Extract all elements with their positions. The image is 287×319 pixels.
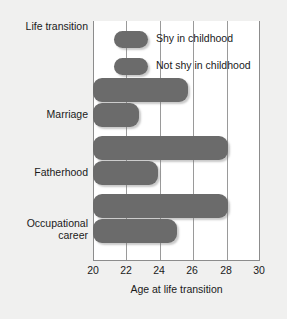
category-label-fatherhood: Fatherhood xyxy=(0,166,88,178)
bar-occupational-shy xyxy=(93,194,228,218)
x-tick-label-24: 24 xyxy=(142,264,176,276)
category-label-occupational-career: Occupational career xyxy=(0,217,88,241)
category-label-marriage: Marriage xyxy=(0,108,88,120)
bar-fatherhood-shy xyxy=(93,136,228,160)
y-axis-title: Life transition xyxy=(0,20,88,32)
category-label-fatherhood-line1: Fatherhood xyxy=(34,166,88,178)
x-tick-label-22: 22 xyxy=(109,264,143,276)
bar-marriage-not-shy xyxy=(93,103,139,127)
bar-fatherhood-not-shy xyxy=(93,161,158,185)
x-tick-label-28: 28 xyxy=(209,264,243,276)
legend-swatch-not-shy xyxy=(114,58,148,75)
x-tick-label-30: 30 xyxy=(242,264,276,276)
x-axis-title: Age at life transition xyxy=(93,283,260,295)
category-label-occupational-line2: career xyxy=(0,229,88,241)
x-tick-label-26: 26 xyxy=(175,264,209,276)
legend-label-shy: Shy in childhood xyxy=(156,32,233,44)
bar-chart: Life transition Shy in childhood Not shy… xyxy=(0,0,287,319)
legend-label-not-shy: Not shy in childhood xyxy=(156,59,251,71)
bar-marriage-shy xyxy=(93,78,188,102)
category-label-marriage-line1: Marriage xyxy=(47,108,88,120)
plot-area: Shy in childhood Not shy in childhood xyxy=(93,21,260,261)
bar-occupational-not-shy xyxy=(93,219,177,243)
category-label-occupational-line1: Occupational xyxy=(0,217,88,229)
legend-swatch-shy xyxy=(114,31,148,48)
x-tick-label-20: 20 xyxy=(76,264,110,276)
